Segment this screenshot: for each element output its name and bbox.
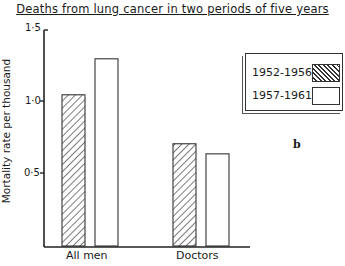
bars-group <box>62 59 229 246</box>
bar-all-men-1952-1956 <box>62 95 85 246</box>
bar-all-men-1957-1961 <box>95 59 118 246</box>
legend-swatch-open <box>312 87 340 105</box>
bar-doctors-1957-1961 <box>206 154 229 246</box>
legend-swatch-hatched <box>312 64 340 82</box>
figure-sub-label: b <box>293 138 301 151</box>
bar-doctors-1952-1956 <box>173 144 196 246</box>
legend-label-1952-1956: 1952-1956 <box>252 66 312 79</box>
x-category-all-men: All men <box>66 249 108 262</box>
x-category-doctors: Doctors <box>176 249 219 262</box>
bar-chart-plot <box>0 0 345 266</box>
legend-label-1957-1961: 1957-1961 <box>252 89 312 102</box>
chart-legend: 1952-1956 1957-1961 <box>245 53 343 111</box>
